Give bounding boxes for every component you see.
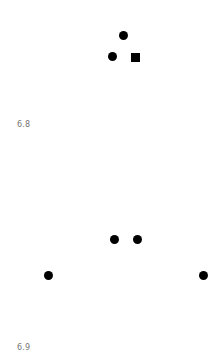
circle-shape xyxy=(108,52,117,61)
figure-label: 6.8 xyxy=(17,120,30,130)
circle-shape xyxy=(199,271,208,280)
circle-shape xyxy=(44,271,53,280)
figure-label: 6.9 xyxy=(17,343,30,353)
circle-shape xyxy=(119,31,128,40)
circle-shape xyxy=(133,235,142,244)
square-shape xyxy=(131,53,140,62)
circle-shape xyxy=(110,235,119,244)
